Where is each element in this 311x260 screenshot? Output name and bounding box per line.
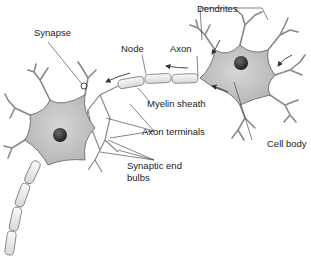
right-nucleus xyxy=(234,56,248,70)
label-synaptic-end-bulbs-2: bulbs xyxy=(127,172,150,183)
label-node: Node xyxy=(121,43,144,54)
label-dendrites: Dendrites xyxy=(197,3,238,14)
label-axon-terminals: Axon terminals xyxy=(142,126,205,137)
right-cell-body xyxy=(200,45,275,105)
neuron-diagram: Dendrites Synapse Node Axon Myelin sheat… xyxy=(0,0,311,260)
left-nucleus xyxy=(53,128,67,142)
label-synaptic-end-bulbs-1: Synaptic end xyxy=(127,160,182,171)
label-axon: Axon xyxy=(170,43,192,54)
label-cell-body: Cell body xyxy=(267,138,307,149)
myelin-segments-bottom xyxy=(4,159,41,255)
label-myelin-sheath: Myelin sheath xyxy=(147,98,206,109)
label-synapse: Synapse xyxy=(34,27,71,38)
myelin-segments-top xyxy=(118,73,199,89)
